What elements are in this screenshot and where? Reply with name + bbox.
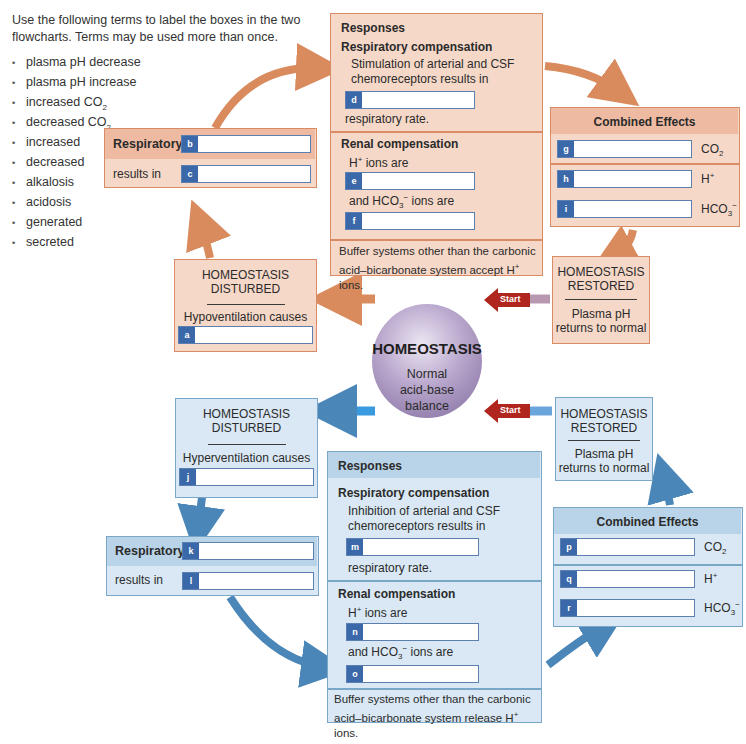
renal-h-text: H+ ions are bbox=[348, 605, 407, 620]
buffer-text: Buffer systems other than the carbonic a… bbox=[339, 244, 544, 293]
co2-label: CO2 bbox=[704, 540, 726, 556]
term-item: •acidosis bbox=[12, 192, 141, 212]
answer-field-j[interactable]: j bbox=[179, 468, 314, 486]
homeostasis-subtitle: Normal acid-base balance bbox=[392, 366, 462, 414]
co2-label: CO2 bbox=[701, 142, 723, 158]
renal-hco3-text: and HCO3− ions are bbox=[349, 193, 454, 210]
renal-title: Renal compensation bbox=[338, 587, 455, 601]
hco3-label: HCO3− bbox=[701, 201, 737, 218]
answer-field-m[interactable]: m bbox=[346, 538, 479, 556]
answer-field-d[interactable]: d bbox=[345, 91, 475, 109]
alkalosis-responses-box: Responses Respiratory compensation Inhib… bbox=[327, 451, 542, 723]
respiratory-label: Respiratory bbox=[115, 544, 184, 558]
resp-comp-title: Respiratory compensation bbox=[338, 486, 489, 500]
answer-field-o[interactable]: o bbox=[346, 665, 479, 683]
alkalosis-restored-box: HOMEOSTASIS RESTORED Plasma pH returns t… bbox=[555, 397, 653, 481]
renal-h-text: H+ ions are bbox=[349, 155, 408, 170]
alkalosis-combined-box: Combined Effects p CO2 q H+ r HCO3− bbox=[553, 507, 743, 627]
resp-comp-text: Stimulation of arterial and CSF chemorec… bbox=[351, 57, 536, 87]
acidosis-combined-box: Combined Effects g CO2 h H+ i HCO3− bbox=[550, 107, 740, 227]
combined-title: Combined Effects bbox=[554, 515, 741, 529]
answer-field-p[interactable]: p bbox=[560, 538, 695, 556]
term-item: •plasma pH decrease bbox=[12, 52, 141, 72]
answer-field-k[interactable]: k bbox=[182, 542, 314, 560]
results-in-label: results in bbox=[115, 573, 163, 587]
start-arrow-alkalosis: Start bbox=[484, 399, 530, 427]
answer-field-h[interactable]: h bbox=[557, 170, 692, 188]
answer-field-c[interactable]: c bbox=[181, 165, 311, 183]
renal-hco3-text: and HCO3− ions are bbox=[348, 644, 453, 661]
answer-field-g[interactable]: g bbox=[557, 140, 692, 158]
h-label: H+ bbox=[701, 171, 714, 186]
acidosis-restored-box: HOMEOSTASIS RESTORED Plasma pH returns t… bbox=[552, 256, 650, 344]
resp-comp-text: Inhibition of arterial and CSF chemorece… bbox=[348, 504, 533, 534]
combined-title: Combined Effects bbox=[551, 115, 738, 129]
answer-field-r[interactable]: r bbox=[560, 599, 695, 617]
resp-after-text: respiratory rate. bbox=[348, 561, 432, 575]
alkalosis-respiratory-box: Respiratory k results in l bbox=[106, 536, 319, 596]
responses-title: Responses bbox=[341, 21, 405, 35]
answer-field-b[interactable]: b bbox=[181, 135, 311, 153]
acidosis-disturbed-box: HOMEOSTASIS DISTURBED Hypoventilation ca… bbox=[174, 259, 317, 352]
answer-field-f[interactable]: f bbox=[345, 212, 475, 230]
term-item: •increased CO2 bbox=[12, 92, 141, 112]
instructions-text: Use the following terms to label the box… bbox=[12, 12, 332, 46]
resp-comp-title: Respiratory compensation bbox=[341, 40, 492, 54]
answer-field-a[interactable]: a bbox=[178, 326, 313, 344]
answer-field-e[interactable]: e bbox=[345, 172, 475, 190]
results-in-label: results in bbox=[113, 167, 161, 181]
homeostasis-title: HOMEOSTASIS bbox=[355, 340, 499, 357]
alkalosis-disturbed-box: HOMEOSTASIS DISTURBED Hyperventilation c… bbox=[175, 398, 318, 498]
term-item: •generated bbox=[12, 212, 141, 232]
buffer-text: Buffer systems other than the carbonic a… bbox=[334, 692, 540, 741]
h-label: H+ bbox=[704, 571, 717, 586]
respiratory-label: Respiratory bbox=[113, 137, 182, 151]
answer-field-i[interactable]: i bbox=[557, 200, 692, 218]
answer-field-n[interactable]: n bbox=[346, 623, 479, 641]
start-arrow-acidosis: Start bbox=[484, 288, 530, 316]
term-item: •plasma pH increase bbox=[12, 72, 141, 92]
answer-field-l[interactable]: l bbox=[182, 572, 314, 590]
acidosis-respiratory-box: Respiratory b results in c bbox=[104, 128, 317, 188]
acidosis-responses-box: Responses Respiratory compensation Stimu… bbox=[330, 13, 543, 276]
hco3-label: HCO3− bbox=[704, 600, 740, 617]
term-item: •secreted bbox=[12, 232, 141, 252]
answer-field-q[interactable]: q bbox=[560, 570, 695, 588]
renal-title: Renal compensation bbox=[341, 137, 458, 151]
responses-title: Responses bbox=[338, 459, 402, 473]
resp-after-text: respiratory rate. bbox=[345, 112, 429, 126]
